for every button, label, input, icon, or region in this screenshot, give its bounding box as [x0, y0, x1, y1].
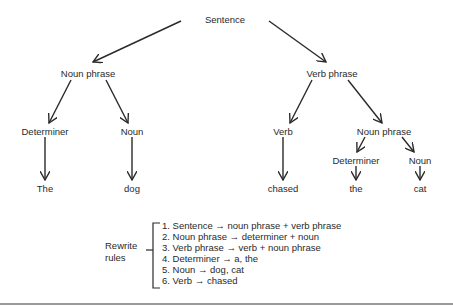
- edge-sentence-verbphrase: [269, 21, 326, 62]
- leaf-the: The: [37, 183, 53, 194]
- rule-item: 6. Verb → chased: [162, 275, 341, 286]
- node-noun-phrase-2: Noun phrase: [357, 126, 411, 137]
- rewrite-rules-list: 1. Sentence → noun phrase + verb phrase …: [162, 220, 341, 286]
- rewrite-rules-label: Rewrite rules: [105, 240, 137, 264]
- edge-vp-np: [348, 80, 382, 123]
- leaf-the-2: the: [349, 183, 362, 194]
- node-determiner: Determiner: [22, 126, 69, 137]
- node-verb-phrase: Verb phrase: [306, 68, 357, 79]
- edge-np-noun: [106, 80, 128, 123]
- edge-vp-verb: [290, 80, 312, 123]
- node-noun-2: Noun: [409, 155, 432, 166]
- rule-item: 2. Noun phrase → determiner + noun: [162, 231, 341, 242]
- rules-bracket: [146, 223, 160, 288]
- node-noun-phrase: Noun phrase: [61, 68, 115, 79]
- rule-item: 3. Verb phrase → verb + noun phrase: [162, 242, 341, 253]
- node-sentence: Sentence: [205, 14, 245, 25]
- node-determiner-2: Determiner: [333, 155, 380, 166]
- edge-np2-det: [357, 137, 365, 152]
- node-verb: Verb: [273, 126, 293, 137]
- edge-sentence-nounphrase: [93, 21, 181, 62]
- leaf-dog: dog: [124, 183, 140, 194]
- edge-np2-noun: [402, 137, 414, 152]
- edge-np-det: [49, 80, 71, 123]
- leaf-chased: chased: [268, 183, 299, 194]
- bottom-divider: [0, 303, 453, 305]
- node-noun: Noun: [121, 126, 144, 137]
- rule-item: 1. Sentence → noun phrase + verb phrase: [162, 220, 341, 231]
- rule-item: 5. Noun → dog, cat: [162, 264, 341, 275]
- rule-item: 4. Determiner → a, the: [162, 253, 341, 264]
- leaf-cat: cat: [414, 183, 427, 194]
